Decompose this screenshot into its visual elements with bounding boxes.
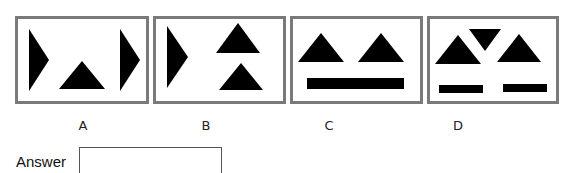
horizontal-bar-icon [307,78,404,89]
option-a-figure[interactable] [15,16,149,104]
up-triangle-icon [216,23,260,53]
up-triangle-icon [435,35,481,64]
up-triangle-icon [298,33,344,62]
up-triangle-icon [219,63,263,90]
up-triangle-icon [59,61,105,89]
option-b-label: B [196,118,216,133]
answer-input[interactable] [79,147,222,173]
right-triangle-icon [120,29,140,91]
option-c-figure[interactable] [290,16,423,104]
right-triangle-icon [167,26,188,88]
short-bar-icon [503,84,547,92]
right-triangle-icon [29,29,49,91]
option-b-shapes [156,19,283,101]
short-bar-icon [439,85,483,93]
option-a-shapes [18,19,146,101]
option-d-shapes [430,19,556,101]
up-triangle-icon [358,33,404,62]
option-a-label: A [73,118,93,133]
answer-label: Answer [16,153,66,170]
down-triangle-icon [469,29,501,51]
option-c-label: C [319,118,339,133]
option-c-shapes [293,19,420,101]
option-d-figure[interactable] [427,16,559,104]
option-b-figure[interactable] [153,16,286,104]
up-triangle-icon [497,34,541,62]
option-d-label: D [448,118,468,133]
